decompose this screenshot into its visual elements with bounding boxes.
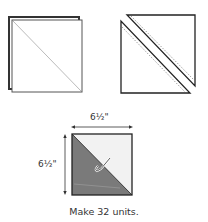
- height-label: 6½": [38, 159, 57, 169]
- caption: Make 32 units.: [0, 206, 208, 217]
- step1-layered-squares: [9, 17, 82, 92]
- width-dimension-arrow: [71, 125, 133, 128]
- step2-cut-triangles: [121, 15, 195, 93]
- diagram-canvas: [0, 0, 208, 222]
- finished-unit: [72, 134, 132, 195]
- height-dimension-arrow: [63, 134, 66, 195]
- width-label: 6½": [90, 112, 109, 122]
